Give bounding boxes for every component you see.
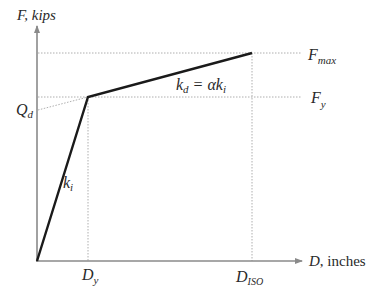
force-displacement-diagram: F, kips D, inches Fmax Fy Qd Dy DISO ki … [0, 0, 378, 303]
kd-label: kd = αki [176, 76, 226, 95]
qd-extension-line [38, 97, 88, 110]
ki-label: ki [63, 174, 73, 193]
qd-label: Qd [16, 101, 34, 120]
x-axis-label: D, inches [308, 253, 366, 269]
diso-label: DISO [235, 268, 263, 287]
fmax-label: Fmax [307, 46, 336, 66]
fy-label: Fy [310, 89, 326, 110]
dy-label: Dy [81, 266, 99, 286]
y-axis-label: F, kips [16, 7, 56, 23]
